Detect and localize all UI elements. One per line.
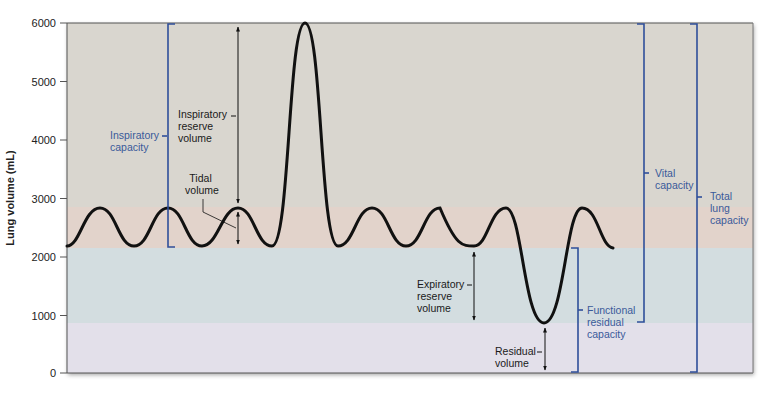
band-tidal (67, 207, 753, 248)
tick-4000: 4000 (32, 134, 56, 146)
tidal-volume-label: Tidal volume (185, 172, 219, 196)
tick-0: 0 (50, 367, 56, 379)
tick-1000: 1000 (32, 310, 56, 322)
band-rv (67, 323, 753, 373)
tick-3000: 3000 (32, 193, 56, 205)
band-erv (67, 248, 753, 323)
tick-6000: 6000 (32, 17, 56, 29)
tick-2000: 2000 (32, 251, 56, 263)
y-axis-label: Lung volume (mL) (4, 150, 16, 246)
tick-5000: 5000 (32, 76, 56, 88)
y-tick-labels: 6000 5000 4000 3000 2000 1000 0 (32, 17, 56, 379)
spirogram-figure: 6000 5000 4000 3000 2000 1000 0 Lung vol… (0, 0, 768, 393)
